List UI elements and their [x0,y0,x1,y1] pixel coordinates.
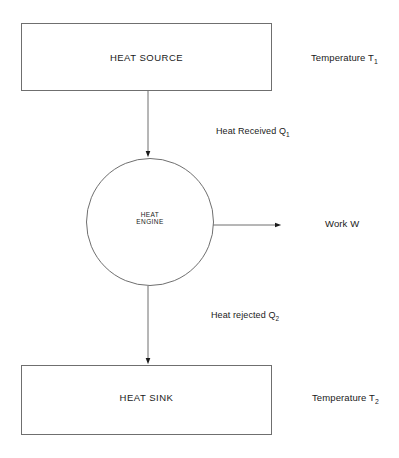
heat-received-subscript: 1 [286,131,290,138]
heat-source-label: HEAT SOURCE [21,53,272,64]
heat-engine-label-line1: HEAT [110,211,190,218]
heat-rejected-subscript: 2 [276,315,280,322]
heat-sink-temperature-label: Temperature T2 [312,393,379,404]
heat-source-temperature-label: Temperature T1 [311,53,378,64]
heat-source-temperature-text: Temperature T [311,52,374,63]
heat-rejected-label: Heat rejected Q2 [211,310,279,320]
heat-engine-diagram: HEAT SOURCE Temperature T1 Heat Received… [0,0,399,458]
heat-sink-temperature-text: Temperature T [312,392,375,403]
heat-engine-label-line2: ENGINE [110,218,190,225]
heat-source-temperature-subscript: 1 [374,58,378,65]
work-output-label: Work W [325,219,359,230]
heat-received-text: Heat Received Q [216,126,286,136]
heat-engine-label: HEATENGINE [110,211,190,226]
heat-received-label: Heat Received Q1 [216,126,290,136]
heat-rejected-text: Heat rejected Q [211,310,276,320]
heat-sink-label: HEAT SINK [21,393,272,404]
heat-sink-temperature-subscript: 2 [375,398,379,405]
